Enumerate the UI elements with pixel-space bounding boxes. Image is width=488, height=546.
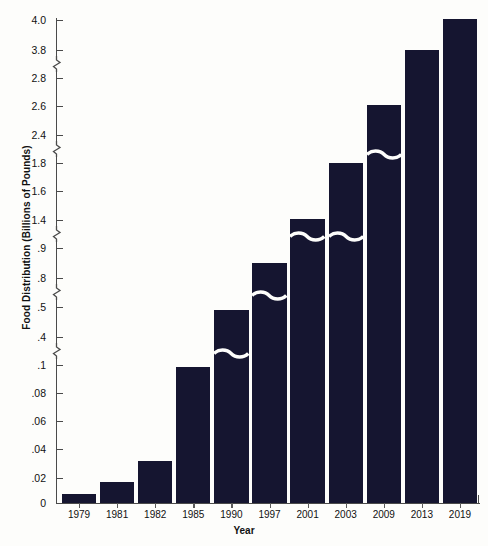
- y-axis-tick: [56, 365, 63, 366]
- x-axis-tick: [384, 503, 385, 508]
- y-axis-tick-label: .9: [0, 242, 46, 254]
- x-axis-tick: [460, 503, 461, 508]
- x-axis-tick: [155, 503, 156, 508]
- x-axis-tick-label: 1985: [182, 509, 204, 520]
- bar: [62, 494, 96, 503]
- x-axis-tick-label: 2009: [373, 509, 395, 520]
- y-axis-tick-label: 1.6: [0, 185, 46, 197]
- bar: [176, 367, 210, 503]
- bar: [138, 461, 172, 503]
- bar: [405, 50, 439, 503]
- x-axis-tick-label: 1981: [106, 509, 128, 520]
- x-axis-tick-label: 2003: [335, 509, 357, 520]
- y-axis-break-mark: [50, 284, 64, 300]
- y-axis-tick-label: .4: [0, 331, 46, 343]
- y-axis-title: Food Distribution (Billions of Pounds): [21, 108, 32, 368]
- bar: [252, 263, 286, 503]
- y-axis-tick-label: .08: [0, 387, 46, 399]
- x-axis-line: [56, 503, 480, 504]
- x-axis-tick: [231, 503, 232, 508]
- x-axis-tick: [346, 503, 347, 508]
- y-axis-tick: [56, 337, 63, 338]
- x-axis-tick-label: 2001: [296, 509, 318, 520]
- y-axis-break-mark: [50, 343, 64, 359]
- bar: [214, 310, 248, 503]
- x-axis-tick-label: 2013: [411, 509, 433, 520]
- y-axis-tick-label: .8: [0, 272, 46, 284]
- y-axis-break-mark: [50, 226, 64, 242]
- y-axis-tick: [56, 20, 63, 21]
- bar: [100, 482, 134, 503]
- x-axis-title: Year: [0, 525, 488, 536]
- y-axis-tick: [56, 449, 63, 450]
- y-axis-tick: [56, 220, 63, 221]
- y-axis-tick-label: .04: [0, 443, 46, 455]
- y-axis-tick: [56, 278, 63, 279]
- y-axis-tick-label: 3.8: [0, 44, 46, 56]
- bar: [443, 19, 477, 503]
- x-axis-tick: [117, 503, 118, 508]
- x-axis-tick-label: 1997: [258, 509, 280, 520]
- bar: [329, 163, 363, 503]
- y-axis-tick-label: .06: [0, 415, 46, 427]
- x-axis-tick-label: 2019: [449, 509, 471, 520]
- x-axis-tick: [193, 503, 194, 508]
- y-axis-tick-label: 2.4: [0, 129, 46, 141]
- y-axis-tick-label: 1.4: [0, 214, 46, 226]
- y-axis-break-mark: [50, 141, 64, 157]
- y-axis-tick-label: 2.8: [0, 72, 46, 84]
- y-axis-tick: [56, 106, 63, 107]
- y-axis-tick: [56, 191, 63, 192]
- y-axis-tick: [56, 307, 63, 308]
- x-axis-right-cap: [478, 495, 479, 504]
- y-axis-tick-label: 1.8: [0, 157, 46, 169]
- bar: [290, 219, 324, 503]
- y-axis-tick: [56, 135, 63, 136]
- y-axis-line: [56, 18, 57, 504]
- y-axis-tick: [56, 393, 63, 394]
- y-axis-break-mark: [50, 56, 64, 72]
- y-axis-tick: [56, 248, 63, 249]
- x-axis-tick: [79, 503, 80, 508]
- x-axis-tick: [270, 503, 271, 508]
- bar-chart: Food Distribution (Billions of Pounds) Y…: [0, 0, 488, 546]
- y-axis-tick: [56, 50, 63, 51]
- y-axis-tick-label: .02: [0, 472, 46, 484]
- x-axis-tick-label: 1982: [144, 509, 166, 520]
- y-axis-tick-label: .5: [0, 301, 46, 313]
- bar: [367, 105, 401, 503]
- y-axis-tick: [56, 163, 63, 164]
- y-axis-tick: [56, 503, 63, 504]
- y-axis-tick-label: 4.0: [0, 14, 46, 26]
- x-axis-tick-label: 1979: [68, 509, 90, 520]
- y-axis-tick-label: 0: [0, 497, 46, 509]
- y-axis-tick-label: .1: [0, 359, 46, 371]
- x-axis-tick: [308, 503, 309, 508]
- x-axis-tick-label: 1990: [220, 509, 242, 520]
- x-axis-tick: [422, 503, 423, 508]
- y-axis-tick: [56, 78, 63, 79]
- y-axis-tick: [56, 478, 63, 479]
- y-axis-tick: [56, 421, 63, 422]
- y-axis-tick-label: 2.6: [0, 100, 46, 112]
